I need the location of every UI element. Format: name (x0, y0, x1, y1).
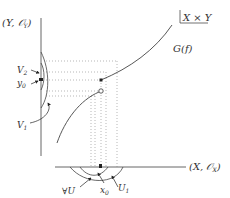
x0-arrow (98, 173, 104, 183)
graph-curve-lower (57, 92, 99, 143)
x-space-label: (X, 𝒪X) (189, 161, 221, 173)
v2-arrow (31, 70, 39, 73)
y0-arrow (31, 81, 38, 84)
graph-curve-upper (101, 25, 172, 80)
forallU-bracket (80, 167, 108, 175)
v1-arrow (30, 103, 49, 123)
dotted-vertical-lines (91, 61, 117, 167)
u1-label: U1 (118, 183, 129, 194)
y0-label: y0 (16, 78, 26, 89)
function-graph-diagram: (Y, 𝒪Y) X × Y G(f) V2 y0 V1 (X, 𝒪X) ∀U x… (0, 0, 230, 198)
u1-bracket (70, 167, 123, 181)
forallU-arrow (80, 178, 91, 187)
graph-label: G(f) (173, 43, 193, 54)
filled-point (100, 79, 103, 82)
v2-label: V2 (17, 65, 28, 76)
x0-label: x0 (100, 185, 109, 196)
y-space-label: (Y, 𝒪Y) (2, 17, 32, 29)
y0-mark (39, 78, 43, 81)
v1-label: V1 (17, 120, 27, 131)
dotted-horizontal-lines (46, 61, 117, 96)
forallU-label: ∀U (62, 186, 75, 196)
open-point (99, 89, 103, 93)
x0-mark (99, 164, 102, 168)
product-space-label: X × Y (182, 12, 213, 23)
